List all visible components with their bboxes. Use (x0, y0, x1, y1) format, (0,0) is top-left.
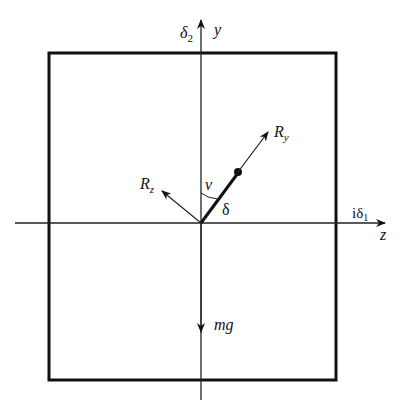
label-delta: δ (222, 201, 230, 218)
label-mg: mg (214, 316, 234, 334)
diagram-canvas: δ2 y iδ1 z Ry Rz ν δ mg (0, 0, 405, 419)
angle-nu-arc (201, 193, 218, 199)
label-z-axis: z (379, 226, 387, 243)
label-nu: ν (205, 176, 213, 193)
label-y-axis: y (212, 21, 222, 39)
label-Rz: Rz (139, 175, 155, 195)
label-Ry: Ry (273, 123, 289, 143)
force-Ry-arrow (238, 132, 268, 172)
label-i-delta1: iδ1 (352, 205, 368, 223)
force-Rz-arrow (162, 191, 201, 223)
label-delta2: δ2 (180, 24, 193, 44)
